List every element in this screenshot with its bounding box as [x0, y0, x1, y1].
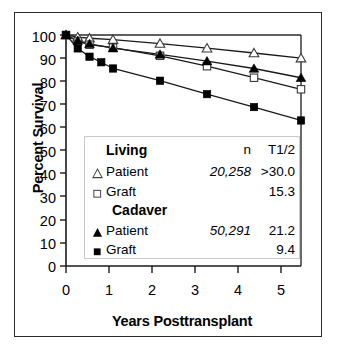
- data-point: [250, 74, 257, 81]
- legend-thalf-cadaver-patient: 21.2: [235, 223, 295, 238]
- legend-group-cadaver: Cadaver: [112, 202, 167, 218]
- filled-triangle-icon: [92, 227, 103, 238]
- legend-row-living-header: Living n T1/2: [85, 142, 301, 160]
- open-square-icon: [92, 188, 103, 199]
- legend-thalf-cadaver-graft: 9.4: [235, 242, 295, 257]
- data-point: [203, 90, 210, 97]
- data-point: [297, 117, 304, 124]
- legend-row-living-graft: Graft 15.3: [85, 184, 301, 202]
- legend-col-header-thalf: T1/2: [235, 142, 295, 157]
- series-markers: [61, 30, 306, 124]
- x-axis-ticks: [66, 266, 281, 273]
- data-point: [156, 77, 163, 84]
- series-line-cadaver-graft: [66, 35, 301, 120]
- legend-thalf-living-patient: >30.0: [235, 164, 295, 179]
- data-point: [250, 103, 257, 110]
- legend-label-cadaver-graft: Graft: [106, 242, 136, 257]
- legend-label-living-graft: Graft: [106, 184, 136, 199]
- data-point: [86, 53, 93, 60]
- legend-thalf-living-graft: 15.3: [235, 184, 295, 199]
- legend-label-cadaver-patient: Patient: [106, 223, 148, 238]
- filled-square-icon: [92, 246, 103, 257]
- series-lines: [66, 35, 301, 120]
- y-axis-ticks: [60, 35, 66, 266]
- series-line-cadaver-patient: [66, 35, 301, 78]
- legend-label-living-patient: Patient: [106, 164, 148, 179]
- legend-row-cadaver-graft: Graft 9.4: [85, 242, 301, 260]
- legend-row-living-patient: Patient 20,258 >30.0: [85, 164, 301, 182]
- data-point: [109, 65, 116, 72]
- data-point: [98, 59, 105, 66]
- legend-row-cadaver-patient: Patient 50,291 21.2: [85, 223, 301, 241]
- legend-group-living: Living: [106, 142, 147, 158]
- data-point: [74, 45, 81, 52]
- chart-legend: Living n T1/2 Patient 20,258 >30.0 Graft…: [84, 136, 300, 259]
- legend-row-cadaver-header: Cadaver: [85, 202, 301, 220]
- data-point: [62, 31, 69, 38]
- survival-chart-figure: Percent Survival Years Posttransplant 10…: [0, 0, 338, 347]
- data-point: [297, 86, 304, 93]
- open-triangle-icon: [92, 168, 103, 179]
